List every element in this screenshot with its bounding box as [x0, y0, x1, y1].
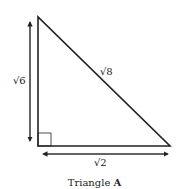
triangle-diagram: √6 √8 √2 Triangle A — [0, 0, 189, 189]
caption-name: A — [113, 177, 121, 188]
caption: Triangle A — [0, 178, 189, 188]
hypotenuse-label: √8 — [100, 67, 113, 77]
left-side-label: √6 — [13, 76, 26, 86]
right-angle-marker — [38, 133, 51, 146]
caption-prefix: Triangle — [68, 177, 114, 188]
bottom-side-label: √2 — [94, 158, 107, 168]
triangle-shape — [38, 17, 170, 146]
